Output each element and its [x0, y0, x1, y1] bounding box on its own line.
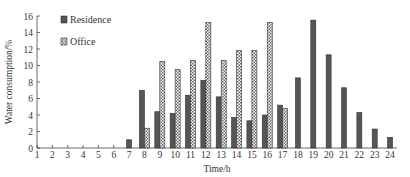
x-tick-label: 2 [50, 150, 55, 160]
x-tick-label: 20 [324, 150, 334, 160]
x-tick-label: 12 [201, 150, 211, 160]
x-tick-label: 5 [96, 150, 101, 160]
bar-office-11 [191, 61, 196, 148]
bar-residence-24 [388, 137, 393, 148]
bar-office-14 [237, 51, 242, 148]
bar-residence-17 [278, 105, 283, 148]
bar-residence-23 [372, 129, 377, 148]
x-tick-label: 16 [263, 150, 273, 160]
bar-residence-21 [342, 88, 347, 148]
bar-residence-12 [201, 80, 206, 148]
y-tick-label: 2 [28, 127, 33, 137]
x-tick-label: 18 [293, 150, 303, 160]
bar-office-10 [175, 70, 180, 148]
bar-residence-14 [232, 117, 237, 148]
y-tick-label: 4 [28, 111, 33, 121]
x-tick-label: 19 [309, 150, 319, 160]
y-tick-label: 0 [28, 144, 33, 154]
bar-office-12 [206, 23, 211, 148]
bar-residence-10 [170, 113, 175, 148]
bar-residence-13 [216, 97, 221, 148]
bar-office-13 [221, 61, 226, 148]
bar-residence-19 [311, 20, 316, 148]
bar-residence-9 [155, 112, 160, 148]
bars [127, 20, 393, 148]
bar-office-8 [144, 128, 149, 148]
water-consumption-chart: 0246810121416 12345678910111213141516171… [0, 0, 410, 177]
x-tick-label: 6 [111, 150, 116, 160]
y-axis-title: Water consumption/% [4, 40, 14, 125]
y-tick-label: 6 [28, 94, 33, 104]
x-tick-label: 22 [355, 150, 365, 160]
x-tick-label: 24 [385, 150, 395, 160]
y-axis: 0246810121416 [24, 12, 41, 154]
x-tick-label: 14 [232, 150, 242, 160]
y-tick-label: 14 [24, 28, 34, 38]
x-tick-label: 3 [65, 150, 70, 160]
legend-swatch-office [61, 38, 67, 45]
x-tick-label: 23 [370, 150, 380, 160]
bar-residence-16 [262, 115, 267, 148]
bar-office-15 [252, 51, 257, 148]
x-tick-label: 8 [142, 150, 147, 160]
legend-swatch-residence [61, 16, 67, 23]
bar-office-9 [160, 61, 165, 148]
x-tick-label: 10 [170, 150, 180, 160]
bar-office-17 [283, 108, 288, 148]
x-tick-label: 7 [127, 150, 132, 160]
x-tick-label: 21 [339, 150, 349, 160]
y-tick-label: 16 [24, 12, 34, 22]
legend: Residence Office [61, 14, 112, 47]
bar-residence-18 [295, 78, 300, 148]
bar-residence-8 [139, 90, 144, 148]
bar-residence-11 [186, 95, 191, 148]
bar-office-16 [267, 23, 272, 148]
legend-label-office: Office [70, 36, 96, 47]
x-tick-label: 11 [186, 150, 195, 160]
bar-residence-7 [127, 140, 132, 148]
x-tick-label: 13 [216, 150, 226, 160]
x-tick-label: 1 [35, 150, 40, 160]
x-tick-label: 15 [247, 150, 257, 160]
bar-residence-22 [357, 113, 362, 148]
x-tick-label: 9 [157, 150, 162, 160]
y-tick-label: 8 [28, 78, 33, 88]
legend-label-residence: Residence [70, 14, 112, 25]
x-axis-title: Time/h [203, 164, 230, 174]
y-tick-label: 12 [24, 45, 34, 55]
x-tick-label: 4 [81, 150, 86, 160]
x-tick-label: 17 [278, 150, 288, 160]
y-tick-label: 10 [24, 61, 34, 71]
bar-residence-15 [247, 121, 252, 148]
bar-residence-20 [326, 55, 331, 148]
